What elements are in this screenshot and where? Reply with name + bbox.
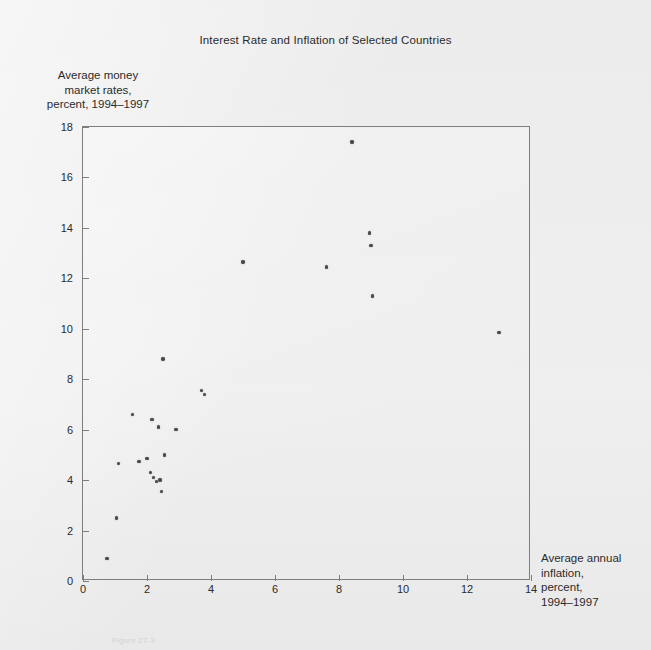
x-tick-label: 4 xyxy=(208,583,214,595)
y-tick-label: 16 xyxy=(61,171,73,183)
scatter-point xyxy=(117,462,120,465)
scatter-point xyxy=(150,418,153,421)
scatter-point xyxy=(369,244,372,247)
y-tick-label: 12 xyxy=(61,272,73,284)
scatter-point xyxy=(325,265,328,268)
scatter-point xyxy=(145,457,148,460)
x-tick-label: 8 xyxy=(336,583,342,595)
y-tick-label: 2 xyxy=(67,525,73,537)
x-tick-label: 10 xyxy=(397,583,409,595)
y-tick-label: 0 xyxy=(67,575,73,587)
figure-page: Interest Rate and Inflation of Selected … xyxy=(0,0,651,650)
x-axis-label-line-1: Average annual xyxy=(541,551,651,566)
scatter-point xyxy=(368,231,371,234)
scatter-points-layer xyxy=(83,127,529,579)
page-title: Interest Rate and Inflation of Selected … xyxy=(0,34,651,46)
y-tick-label: 10 xyxy=(61,323,73,335)
scatter-plot-area: 024681012141618 02468101214 xyxy=(82,126,530,580)
y-axis-label-line-3: percent, 1994–1997 xyxy=(18,97,178,112)
y-axis-label-line-1: Average money xyxy=(18,68,178,83)
scatter-point xyxy=(203,393,206,396)
y-tick-label: 4 xyxy=(67,474,73,486)
scatter-point xyxy=(137,460,140,463)
y-axis-label: Average money market rates, percent, 199… xyxy=(18,68,178,112)
figure-caption: Figure 27-3 xyxy=(112,636,155,645)
scatter-point xyxy=(152,476,155,479)
y-tick-label: 18 xyxy=(61,121,73,133)
x-tick-mark xyxy=(531,575,532,581)
x-axis-label-line-2: inflation, xyxy=(541,566,651,581)
scatter-point xyxy=(200,389,203,392)
x-tick-label: 6 xyxy=(272,583,278,595)
scatter-point xyxy=(163,453,166,456)
x-axis-label: Average annual inflation, percent, 1994–… xyxy=(541,551,651,609)
y-tick-label: 14 xyxy=(61,222,73,234)
x-axis-label-line-4: 1994–1997 xyxy=(541,595,651,610)
scatter-point xyxy=(158,478,161,481)
scatter-point xyxy=(149,471,152,474)
scatter-point xyxy=(115,516,118,519)
scatter-point xyxy=(497,331,500,334)
y-tick-mark xyxy=(83,581,89,582)
x-tick-label: 2 xyxy=(144,583,150,595)
scatter-point xyxy=(160,490,163,493)
x-tick-label: 12 xyxy=(461,583,473,595)
y-tick-label: 8 xyxy=(67,373,73,385)
y-tick-label: 6 xyxy=(67,424,73,436)
scatter-point xyxy=(105,557,108,560)
x-tick-label: 0 xyxy=(80,583,86,595)
x-tick-label: 14 xyxy=(525,583,537,595)
scatter-point xyxy=(157,425,160,428)
x-axis-label-line-3: percent, xyxy=(541,580,651,595)
scatter-point xyxy=(131,413,134,416)
scatter-point xyxy=(161,357,164,360)
scatter-point xyxy=(371,294,374,297)
scatter-point xyxy=(350,140,353,143)
y-axis-label-line-2: market rates, xyxy=(18,83,178,98)
scatter-point xyxy=(241,260,244,263)
scatter-point xyxy=(174,428,177,431)
